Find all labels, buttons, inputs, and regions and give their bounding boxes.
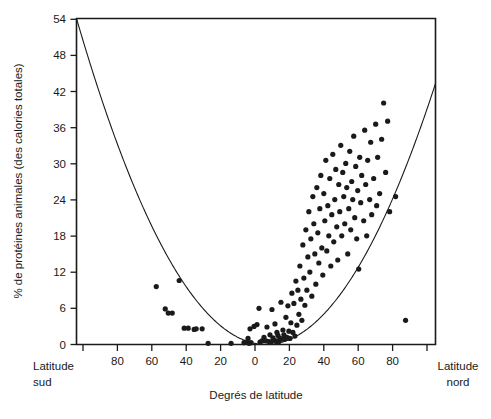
data-point bbox=[357, 155, 362, 160]
data-point bbox=[264, 324, 269, 329]
data-point bbox=[313, 282, 318, 287]
latitude-sud-line1: Latitude bbox=[33, 360, 74, 372]
data-point bbox=[170, 311, 175, 316]
data-point bbox=[256, 306, 261, 311]
data-point bbox=[353, 164, 358, 169]
x-tick-label: 20 bbox=[214, 355, 227, 367]
data-point bbox=[343, 161, 348, 166]
data-point bbox=[329, 212, 334, 217]
data-point bbox=[314, 185, 319, 190]
data-point bbox=[310, 194, 315, 199]
data-point bbox=[387, 209, 392, 214]
data-point bbox=[351, 134, 356, 139]
data-point bbox=[369, 212, 374, 217]
data-point bbox=[272, 321, 277, 326]
data-point bbox=[299, 318, 304, 323]
data-point bbox=[367, 197, 372, 202]
data-point bbox=[326, 233, 331, 238]
x-tick-label: 20 bbox=[283, 355, 296, 367]
data-point bbox=[374, 203, 379, 208]
y-tick-label: 54 bbox=[53, 13, 66, 25]
data-point bbox=[285, 303, 290, 308]
data-point bbox=[356, 266, 361, 271]
y-tick-label: 6 bbox=[60, 302, 66, 314]
data-point bbox=[365, 158, 370, 163]
data-point bbox=[303, 227, 308, 232]
data-point bbox=[295, 288, 300, 293]
data-point bbox=[305, 254, 310, 259]
y-tick-label: 36 bbox=[53, 122, 66, 134]
chart-figure: 0 6 12 18 24 30 36 42 48 54 80 bbox=[0, 0, 491, 419]
data-point bbox=[342, 221, 347, 226]
data-point bbox=[335, 257, 340, 262]
latitude-nord-line2: nord bbox=[446, 376, 469, 388]
data-point bbox=[302, 303, 307, 308]
y-tick-label: 0 bbox=[60, 339, 66, 351]
data-point bbox=[318, 173, 323, 178]
data-point bbox=[363, 182, 368, 187]
x-tick-label: 80 bbox=[111, 355, 124, 367]
data-point bbox=[330, 152, 335, 157]
data-point bbox=[294, 323, 299, 328]
data-point bbox=[186, 326, 191, 331]
scatter-points-group bbox=[154, 100, 409, 345]
latitude-sud-line2: sud bbox=[33, 376, 52, 388]
data-point bbox=[364, 233, 369, 238]
data-point bbox=[336, 182, 341, 187]
data-point bbox=[368, 140, 373, 145]
data-point bbox=[377, 191, 382, 196]
data-point bbox=[228, 341, 233, 346]
data-point bbox=[338, 143, 343, 148]
x-axis-title: Degrés de latitude bbox=[209, 389, 302, 401]
y-tick-label: 18 bbox=[53, 230, 66, 242]
data-point bbox=[337, 209, 342, 214]
data-point bbox=[373, 122, 378, 127]
data-point bbox=[379, 137, 384, 142]
data-point bbox=[206, 341, 211, 346]
y-tick-label: 12 bbox=[53, 266, 66, 278]
data-point bbox=[332, 197, 337, 202]
y-tick-label: 30 bbox=[53, 158, 66, 170]
data-point bbox=[323, 158, 328, 163]
data-point bbox=[325, 203, 330, 208]
data-point bbox=[245, 336, 250, 341]
data-point bbox=[306, 209, 311, 214]
y-axis-title: % de protéines animales (des calories to… bbox=[12, 63, 24, 298]
data-point bbox=[319, 245, 324, 250]
data-point bbox=[316, 260, 321, 265]
x-tick-label: 40 bbox=[180, 355, 193, 367]
y-tick-label: 24 bbox=[53, 194, 66, 206]
data-point bbox=[317, 206, 322, 211]
data-point bbox=[283, 315, 288, 320]
data-point bbox=[348, 227, 353, 232]
x-axis-ticks bbox=[83, 345, 427, 352]
data-point bbox=[358, 200, 363, 205]
y-tick-label: 42 bbox=[53, 86, 66, 98]
data-point bbox=[300, 242, 305, 247]
data-point bbox=[254, 322, 259, 327]
data-point bbox=[322, 218, 327, 223]
data-point bbox=[354, 236, 359, 241]
scatter-plot-svg: 0 6 12 18 24 30 36 42 48 54 80 bbox=[0, 0, 491, 419]
data-point bbox=[293, 279, 298, 284]
data-point bbox=[333, 167, 338, 172]
data-point bbox=[355, 188, 360, 193]
data-point bbox=[304, 288, 309, 293]
data-point bbox=[200, 326, 205, 331]
data-point bbox=[154, 284, 159, 289]
latitude-nord-label: Latitude nord bbox=[438, 360, 479, 388]
x-tick-label: 60 bbox=[352, 355, 365, 367]
data-point bbox=[350, 197, 355, 202]
data-point bbox=[381, 100, 386, 105]
data-point bbox=[324, 248, 329, 253]
data-point bbox=[359, 173, 364, 178]
data-point bbox=[296, 312, 301, 317]
data-point bbox=[349, 179, 354, 184]
data-point bbox=[339, 233, 344, 238]
x-tick-label: 60 bbox=[145, 355, 158, 367]
data-point bbox=[361, 218, 366, 223]
data-point bbox=[288, 320, 293, 325]
data-point bbox=[344, 185, 349, 190]
data-point bbox=[309, 294, 314, 299]
plot-frame bbox=[77, 19, 436, 345]
